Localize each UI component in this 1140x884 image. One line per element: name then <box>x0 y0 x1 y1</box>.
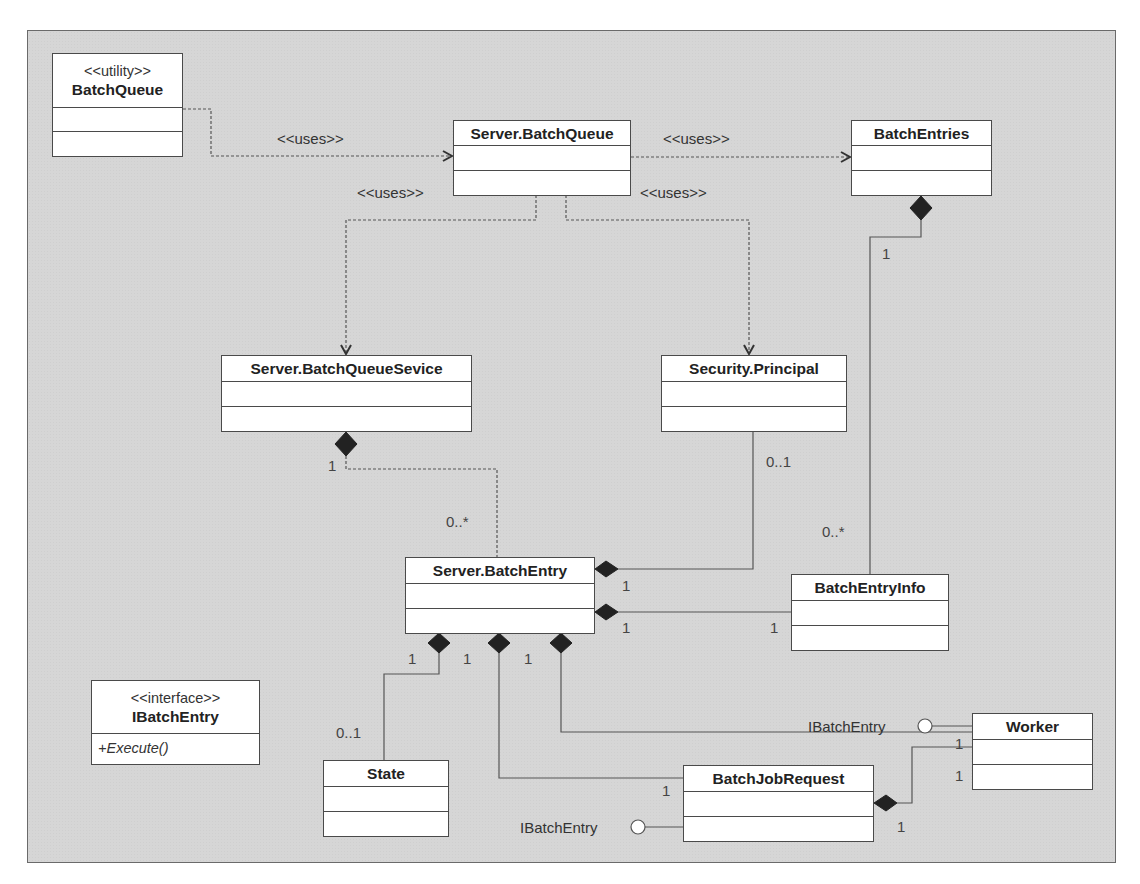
class-name: Server.BatchQueue <box>454 124 630 143</box>
class-server-batch-queue[interactable]: Server.BatchQueue <box>453 120 631 196</box>
composition-diamond-entry-state-icon <box>428 633 450 653</box>
composition-diamond-entry-principal-icon <box>595 561 618 577</box>
stereotype-label: <<utility>> <box>53 62 182 80</box>
attributes-section <box>684 792 873 817</box>
interface-label-worker: IBatchEntry <box>808 718 886 735</box>
class-name: BatchQueue <box>53 80 182 99</box>
class-name: Security.Principal <box>662 359 846 378</box>
dependency-server-queue-to-principal <box>566 195 749 354</box>
multiplicity-jobrequest-worker-request-end: 1 <box>897 818 905 835</box>
interface-ibatch-entry[interactable]: <<interface>> IBatchEntry +Execute() <box>91 680 260 765</box>
class-name: Worker <box>973 717 1092 736</box>
composition-entry-to-jobrequest <box>499 653 683 778</box>
multiplicity-entry-principal-end: 1 <box>622 577 630 594</box>
class-name: IBatchEntry <box>92 707 259 726</box>
multiplicity-worker-end: 1 <box>955 735 963 752</box>
class-name: BatchEntryInfo <box>792 578 948 597</box>
multiplicity-jobrequest-end: 1 <box>662 782 670 799</box>
composition-diamond-entry-worker-icon <box>550 633 572 653</box>
operations-section <box>454 171 630 195</box>
uses-label-server-queue-to-principal: <<uses>> <box>640 184 707 201</box>
multiplicity-principal-end: 0..1 <box>766 453 791 470</box>
uses-label-server-queue-to-service: <<uses>> <box>357 184 424 201</box>
attributes-section <box>662 382 846 407</box>
multiplicity-entry-state-entry-end: 1 <box>408 650 416 667</box>
attributes-section <box>792 601 948 626</box>
attributes-section <box>324 787 448 812</box>
class-worker[interactable]: Worker <box>972 713 1093 790</box>
interface-label-jobrequest: IBatchEntry <box>520 819 598 836</box>
class-server-batch-entry[interactable]: Server.BatchEntry <box>405 557 595 634</box>
composition-entries-to-info <box>870 220 921 574</box>
attributes-section <box>852 146 991 171</box>
class-name: Server.BatchQueueSevice <box>222 359 471 378</box>
class-name: BatchJobRequest <box>684 769 873 788</box>
operations-section <box>792 626 948 650</box>
class-batch-entry-info[interactable]: BatchEntryInfo <box>791 574 949 651</box>
attributes-section <box>222 382 471 407</box>
operations-section: +Execute() <box>92 734 259 764</box>
class-name: Server.BatchEntry <box>406 561 594 580</box>
composition-diamond-entries-icon <box>910 196 932 220</box>
multiplicity-entry-info-info-end: 1 <box>770 619 778 636</box>
multiplicity-entry-jobrequest-entry-end: 1 <box>463 650 471 667</box>
dependency-server-queue-to-service <box>346 195 536 354</box>
class-state[interactable]: State <box>323 760 449 837</box>
operation-execute: +Execute() <box>92 734 259 762</box>
operations-section <box>662 407 846 431</box>
operations-section <box>973 765 1092 789</box>
stereotype-label: <<interface>> <box>92 689 259 707</box>
attributes-section <box>973 740 1092 765</box>
composition-diamond-entry-jobrequest-icon <box>488 633 510 653</box>
uses-label-utility-to-server-queue: <<uses>> <box>277 130 344 147</box>
composition-diamond-service-icon <box>335 432 357 456</box>
operations-section <box>852 171 991 195</box>
association-principal-to-entry <box>618 431 753 569</box>
uses-label-server-queue-to-entries: <<uses>> <box>663 130 730 147</box>
multiplicity-entry-info-entry-end: 1 <box>622 619 630 636</box>
interface-lollipop-worker-icon <box>918 719 932 733</box>
multiplicity-entry-worker-entry-end: 1 <box>524 650 532 667</box>
attributes-section <box>53 108 182 132</box>
class-security-principal[interactable]: Security.Principal <box>661 355 847 432</box>
operations-section <box>406 609 594 633</box>
attributes-section <box>406 584 594 609</box>
class-name: State <box>324 764 448 783</box>
class-server-batch-queue-service[interactable]: Server.BatchQueueSevice <box>221 355 472 432</box>
operations-section <box>222 407 471 431</box>
multiplicity-entries-end: 1 <box>882 245 890 262</box>
multiplicity-entry-end-many: 0..* <box>446 513 469 530</box>
multiplicity-info-end-many: 0..* <box>822 523 845 540</box>
class-batch-queue-utility[interactable]: <<utility>> BatchQueue <box>52 53 183 157</box>
class-batch-job-request[interactable]: BatchJobRequest <box>683 765 874 842</box>
composition-service-to-entry <box>346 456 497 557</box>
composition-entry-to-state <box>384 653 439 760</box>
class-batch-entries[interactable]: BatchEntries <box>851 120 992 196</box>
operations-section <box>684 817 873 841</box>
composition-diamond-entry-info-icon <box>595 604 618 620</box>
composition-entry-to-worker <box>561 653 972 732</box>
operations-section <box>324 812 448 836</box>
interface-lollipop-jobrequest-icon <box>631 820 645 834</box>
multiplicity-jobrequest-worker-worker-end: 1 <box>955 767 963 784</box>
multiplicity-service-end: 1 <box>328 457 336 474</box>
composition-diamond-jobrequest-icon <box>874 795 897 811</box>
class-name: BatchEntries <box>852 124 991 143</box>
operations-section <box>53 132 182 155</box>
attributes-section <box>454 146 630 171</box>
multiplicity-state-end: 0..1 <box>336 724 361 741</box>
